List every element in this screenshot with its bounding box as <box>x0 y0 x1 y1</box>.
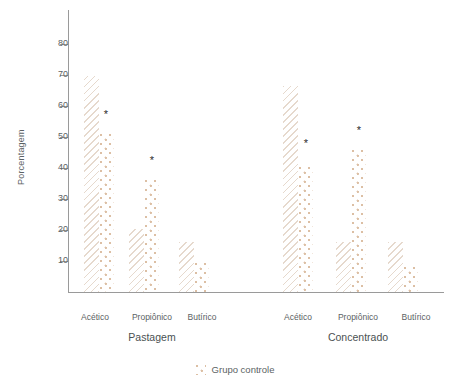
bar-pastagem-acetico-controle[interactable] <box>99 133 114 292</box>
y-tick-30: 30 <box>0 199 68 200</box>
legend: Grupo controle <box>0 364 469 375</box>
y-tick-40: 40 <box>0 168 68 169</box>
significance-asterisk: * <box>304 138 308 149</box>
bar-pastagem-butirico-controle[interactable] <box>194 262 209 292</box>
bar-pastagem-propionico-hachurado[interactable] <box>129 229 144 292</box>
y-tick-label: 60 <box>14 101 68 110</box>
x-category-label-acetico-pastagem: Acético <box>81 312 109 322</box>
y-tick-70: 70 <box>0 75 68 76</box>
bar-concentrado-acetico-controle[interactable] <box>298 166 313 292</box>
y-tick-label: 50 <box>14 132 68 141</box>
y-tick-label: 10 <box>14 256 68 265</box>
dots-swatch-icon <box>195 364 206 375</box>
significance-asterisk: * <box>104 109 108 120</box>
bar-concentrado-propionico-controle[interactable] <box>351 149 366 292</box>
significance-asterisk: * <box>357 125 361 136</box>
plot-area: * * * * <box>68 10 444 292</box>
y-tick-80: 80 <box>0 44 68 45</box>
x-category-label-propionico-pastagem: Propiônico <box>132 312 172 322</box>
bar-pastagem-propionico-controle[interactable] <box>144 179 159 292</box>
y-tick-60: 60 <box>0 106 68 107</box>
legend-item-label: Grupo controle <box>212 364 275 375</box>
bar-concentrado-propionico-hachurado[interactable] <box>336 242 351 292</box>
y-tick-label: 80 <box>14 39 68 48</box>
y-tick-label: 70 <box>14 70 68 79</box>
bar-pastagem-butirico-hachurado[interactable] <box>179 242 194 292</box>
x-group-label-pastagem: Pastagem <box>128 331 175 343</box>
y-tick-50: 50 <box>0 137 68 138</box>
x-category-label-acetico-concentrado: Acético <box>284 312 312 322</box>
y-tick-10: 10 <box>0 261 68 262</box>
x-axis-line <box>68 292 444 293</box>
bar-concentrado-butirico-hachurado[interactable] <box>388 242 403 292</box>
y-tick-label: 20 <box>14 225 68 234</box>
chart-container: Porcentagem 80 70 60 50 40 30 20 10 <box>0 0 469 385</box>
y-tick-label: 40 <box>14 163 68 172</box>
y-tick-label: 30 <box>14 194 68 203</box>
x-category-label-butirico-concentrado: Butírico <box>402 312 431 322</box>
bar-pastagem-acetico-hachurado[interactable] <box>84 76 99 292</box>
x-category-label-butirico-pastagem: Butírico <box>188 312 217 322</box>
bar-concentrado-acetico-hachurado[interactable] <box>283 86 298 292</box>
x-group-label-concentrado: Concentrado <box>328 331 388 343</box>
y-tick-20: 20 <box>0 230 68 231</box>
x-category-label-propionico-concentrado: Propiônico <box>338 312 378 322</box>
significance-asterisk: * <box>150 155 154 166</box>
bar-concentrado-butirico-controle[interactable] <box>403 266 418 293</box>
